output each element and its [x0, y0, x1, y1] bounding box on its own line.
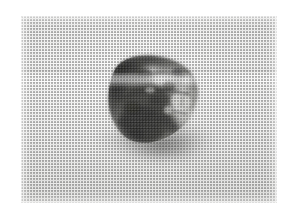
scan-band [21, 72, 277, 88]
shell-illustration [21, 16, 277, 203]
photograph [21, 16, 277, 203]
shell-subject [21, 16, 277, 203]
page-root: Halftone-printed black and white photogr… [0, 0, 295, 223]
photo-alt-text: Halftone-printed black and white photogr… [0, 0, 1, 1]
photo-caption [0, 0, 1, 1]
shell-aperture-rim [176, 107, 194, 129]
